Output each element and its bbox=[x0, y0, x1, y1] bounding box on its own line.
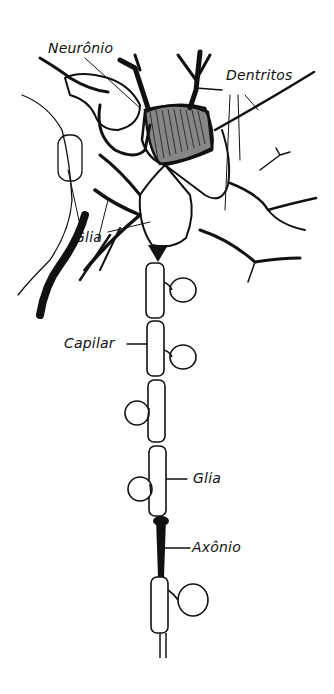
label-glia-top: Glia bbox=[74, 229, 102, 245]
neuron-illustration bbox=[0, 0, 334, 694]
label-axon: Axônio bbox=[192, 539, 241, 555]
label-dendrites: Dentritos bbox=[226, 67, 293, 83]
label-glia-bottom: Glia bbox=[193, 470, 221, 486]
label-neuron: Neurônio bbox=[48, 40, 113, 56]
neuron-diagram: Neurônio Dentritos Glia Capilar Glia Axô… bbox=[0, 0, 334, 694]
label-capillary: Capilar bbox=[64, 335, 115, 351]
